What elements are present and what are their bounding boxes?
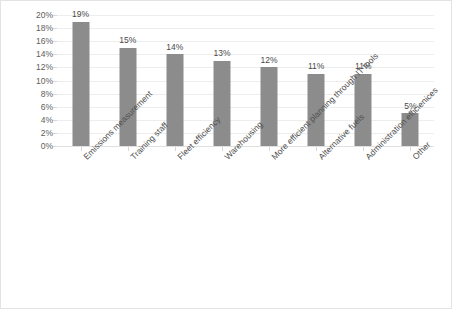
x-axis-category-label: More efficient planning through IT tools — [270, 155, 276, 161]
bar — [213, 61, 230, 146]
y-axis-tick-mark — [53, 54, 57, 55]
x-axis-category-label: Alternative fuels — [317, 155, 323, 161]
y-axis-tick-label: 2% — [21, 129, 53, 138]
x-axis-category-label: Fleet efficiency — [176, 155, 182, 161]
bar-value-label: 13% — [213, 49, 230, 58]
y-axis-tick-mark — [53, 28, 57, 29]
bar — [261, 67, 278, 146]
y-axis-tick-mark — [53, 67, 57, 68]
y-axis-tick-label: 20% — [21, 11, 53, 20]
x-axis-tick-mark — [128, 147, 129, 151]
bar-chart: 0%2%4%6%8%10%12%14%16%18%20% 19%15%14%13… — [0, 0, 452, 309]
bar — [119, 48, 136, 146]
x-axis-category-label: Administration efficienices — [364, 155, 370, 161]
bar-slot: 19% — [57, 15, 104, 146]
x-axis-category-label: Emissions measurement — [82, 155, 88, 161]
x-axis-category-label: Warehousing — [223, 155, 229, 161]
y-axis-tick-label: 4% — [21, 116, 53, 125]
x-axis-tick-mark — [175, 147, 176, 151]
bar-value-label: 14% — [166, 43, 183, 52]
x-axis-tick-mark — [81, 147, 82, 151]
y-axis-tick-mark — [53, 15, 57, 16]
y-axis-tick-label: 0% — [21, 142, 53, 151]
bar-value-label: 12% — [261, 56, 278, 65]
bar — [72, 22, 89, 146]
x-axis-category-label: Training staff — [129, 155, 135, 161]
bar-value-label: 19% — [72, 10, 89, 19]
x-axis-tick-mark — [222, 147, 223, 151]
x-axis-tick-mark — [410, 147, 411, 151]
x-axis-tick-mark — [316, 147, 317, 151]
y-axis-tick-label: 18% — [21, 24, 53, 33]
y-axis-tick-label: 8% — [21, 89, 53, 98]
bar-value-label: 11% — [308, 62, 324, 71]
y-axis-tick-label: 6% — [21, 102, 53, 111]
y-axis-tick-label: 10% — [21, 76, 53, 85]
bar — [355, 74, 372, 146]
y-axis-tick-mark — [53, 120, 57, 121]
y-axis-tick-mark — [53, 94, 57, 95]
y-axis-tick-mark — [53, 81, 57, 82]
bar-value-label: 15% — [119, 36, 136, 45]
x-axis-category-label: Other — [411, 155, 417, 161]
y-axis-tick-mark — [53, 107, 57, 108]
y-axis-tick-label: 16% — [21, 37, 53, 46]
y-axis-tick-label: 14% — [21, 50, 53, 59]
y-axis-tick-mark — [53, 133, 57, 134]
x-axis-tick-mark — [363, 147, 364, 151]
y-axis-tick-mark — [53, 41, 57, 42]
y-axis-tick-mark — [53, 146, 57, 147]
x-axis-tick-mark — [269, 147, 270, 151]
y-axis: 0%2%4%6%8%10%12%14%16%18%20% — [19, 15, 53, 146]
y-axis-tick-label: 12% — [21, 63, 53, 72]
bar — [166, 54, 183, 146]
